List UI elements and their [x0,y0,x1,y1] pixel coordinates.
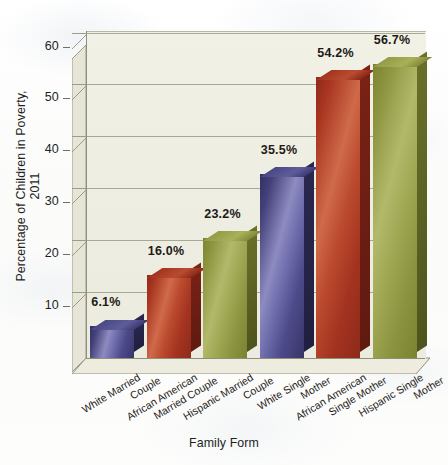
bar-value-label: 6.1% [91,295,120,309]
x-axis-title: Family Form [0,436,448,450]
gridline-depth-edge [72,33,87,49]
gridline-depth-edge [72,136,87,152]
bar-side-face [417,51,427,352]
bar[interactable] [316,77,360,358]
bar-value-label: 56.7% [374,33,410,47]
bar-side-face [360,64,370,352]
gridline-depth-edge [72,188,87,204]
bar[interactable] [203,238,247,358]
bar-value-label: 54.2% [317,46,353,60]
y-tick-label: 10 [31,298,59,312]
bar[interactable] [373,64,417,358]
y-tick-mark [63,254,70,255]
bar[interactable] [147,275,191,358]
x-axis-line [86,358,425,359]
gridline-depth-edge [72,240,87,256]
bar-front-face [90,326,134,358]
y-tick-mark [63,150,70,151]
bar[interactable] [260,174,304,358]
y-tick-mark [63,47,70,48]
gridline-depth-edge [72,84,87,100]
bar-side-face [304,161,314,352]
bar-chart: 102030405060 6.1%16.0%23.2%35.5%54.2%56.… [0,0,448,465]
bar-value-label: 35.5% [261,143,297,157]
y-axis-title: Percentage of Children in Poverty, 2011 [14,76,42,296]
gridline-depth-edge [72,292,87,308]
bar-front-face [260,174,304,358]
bar[interactable] [90,326,134,358]
bar-side-face [247,225,257,352]
bar-front-face [373,64,417,358]
y-tick-label: 60 [31,39,59,53]
y-tick-mark [63,98,70,99]
plot-area: 102030405060 6.1%16.0%23.2%35.5%54.2%56.… [0,0,448,465]
bar-value-label: 16.0% [148,244,184,258]
bar-front-face [147,275,191,358]
y-tick-mark [63,202,70,203]
bar-value-label: 23.2% [204,207,240,221]
y-tick-mark [63,306,70,307]
bar-front-face [203,238,247,358]
bar-front-face [316,77,360,358]
y-axis-line [86,31,87,359]
